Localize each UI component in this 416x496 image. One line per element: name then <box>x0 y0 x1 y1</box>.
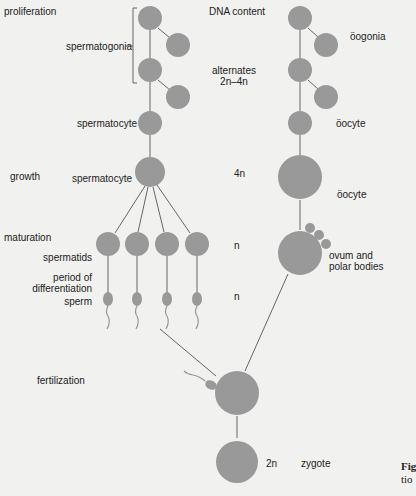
spermatogonium-daughter-cell <box>166 85 190 109</box>
spermatogonium-cell <box>138 58 162 82</box>
primary-spermatocyte-cell <box>138 111 162 135</box>
oogonium-cell <box>288 58 312 82</box>
stage-label-fertilization: fertilization <box>37 375 85 386</box>
label-differentiation: differentiation <box>10 283 92 294</box>
dna-sperm: n <box>234 291 240 302</box>
label-spermatids: spermatids <box>30 252 92 263</box>
label-oocyte-grown: öocyte <box>337 189 366 200</box>
label-ovum-line2: polar bodies <box>329 261 383 272</box>
primary-oocyte-cell <box>288 111 312 135</box>
figure-caption-line2: tio <box>401 474 413 485</box>
stage-label-growth: growth <box>10 171 40 182</box>
spermatogonium-cell <box>138 6 162 30</box>
dna-zygote: 2n <box>266 458 277 469</box>
polar-body <box>305 223 315 233</box>
figure-caption-line1: Fig <box>401 461 416 472</box>
stage-label-proliferation: proliferation <box>4 6 56 17</box>
polar-body <box>314 230 324 240</box>
spermatogonium-daughter-cell <box>166 33 190 57</box>
sperm-icon <box>162 292 172 306</box>
dna-proliferation-line1: alternates <box>206 65 262 76</box>
dna-proliferation-line2: 2n–4n <box>206 76 262 87</box>
oogonium-cell <box>288 6 312 30</box>
label-spermatocyte-primary: spermatocyte <box>77 118 137 129</box>
label-spermatogonia: spermatogonia <box>66 41 132 52</box>
label-ovum-line1: ovum and <box>329 250 373 261</box>
spermatid-cell <box>155 232 179 256</box>
dna-growth: 4n <box>234 168 245 179</box>
stage-label-maturation: maturation <box>4 232 51 243</box>
fertilized-egg-cell <box>215 371 259 415</box>
label-zygote: zygote <box>301 458 330 469</box>
spermatid-cell <box>185 232 209 256</box>
dna-content-header: DNA content <box>209 6 265 17</box>
zygote-cell <box>216 441 258 483</box>
dna-maturation: n <box>234 240 240 251</box>
polar-body <box>321 239 331 249</box>
spermatid-cell <box>96 232 120 256</box>
grown-spermatocyte-cell <box>135 157 165 187</box>
oogonium-daughter-cell <box>314 33 338 57</box>
sperm-icon <box>103 292 113 306</box>
label-period-of: period of <box>20 272 92 283</box>
label-oogonia: öogonia <box>350 31 386 42</box>
label-spermatocyte-grown: spermatocyte <box>72 173 132 184</box>
sperm-icon <box>132 292 142 306</box>
oogonium-daughter-cell <box>314 85 338 109</box>
sperm-icon <box>192 292 202 306</box>
grown-oocyte-cell <box>278 155 322 199</box>
label-sperm: sperm <box>40 296 92 307</box>
spermatid-cell <box>125 232 149 256</box>
label-oocyte-primary: öocyte <box>336 118 365 129</box>
